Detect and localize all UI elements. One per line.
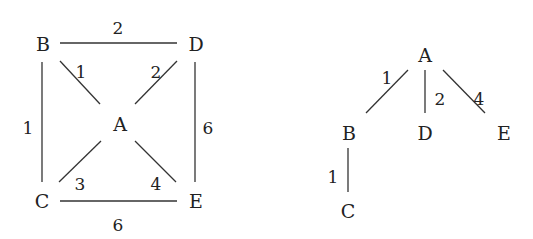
- graph-node-e: E: [189, 190, 203, 212]
- graph-edge-weight: 6: [113, 215, 124, 235]
- graph-edge-weight: 6: [203, 118, 214, 138]
- graph-edge-weight: 2: [151, 62, 162, 82]
- graph-and-spanning-tree-diagram: 21216346 BDACE 1241 ABDEC: [0, 0, 533, 239]
- graph-edge-weight: 4: [151, 174, 162, 194]
- tree-nodes: ABDEC: [341, 44, 511, 222]
- tree-node-b: B: [342, 122, 356, 144]
- tree-node-d: D: [417, 122, 432, 144]
- tree-edge-weight: 1: [382, 68, 393, 88]
- graph-edge-weight: 1: [23, 118, 34, 138]
- graph-nodes: BDACE: [35, 33, 204, 212]
- tree-node-a: A: [417, 44, 432, 66]
- graph-node-b: B: [36, 33, 50, 55]
- graph-edge-weight: 3: [75, 174, 86, 194]
- graph-node-a: A: [112, 113, 127, 135]
- graph-node-d: D: [188, 33, 203, 55]
- tree-edge-weight: 1: [328, 167, 339, 187]
- graph-node-c: C: [35, 190, 50, 212]
- tree-edge-weight: 2: [435, 89, 446, 109]
- tree-edge-weight: 4: [474, 89, 485, 109]
- tree-node-c: C: [341, 200, 356, 222]
- tree-node-e: E: [497, 122, 511, 144]
- graph-edge-weight: 1: [76, 62, 87, 82]
- graph-edge-weight: 2: [113, 18, 124, 38]
